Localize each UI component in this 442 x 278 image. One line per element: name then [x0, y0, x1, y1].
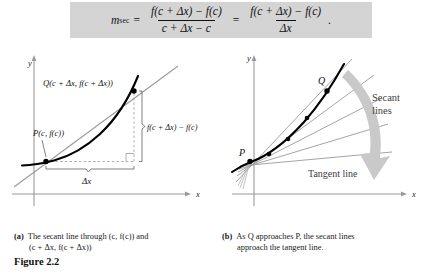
caption-a-line1-row: (a) The secant line through (c, f(c)) an… — [14, 231, 214, 242]
run-brace — [46, 166, 134, 172]
point-p-label: P — [238, 147, 245, 158]
caption-a-line2: (c + Δx, f(c + Δx)) — [14, 242, 214, 253]
formula-lhs-variable: m — [111, 14, 119, 26]
panel-a-secant-line-diagram: y x Q(c + Δx, f(c + Δx)) P(c, f(c)) f(c … — [0, 48, 224, 228]
secant-lines-label-line1: Secant — [372, 92, 400, 103]
panel-b-svg: y x P Q Secant lines Tangent line — [224, 48, 442, 228]
formula-fraction-1-numerator: f(c + Δx) − f(c) — [147, 5, 226, 19]
caption-b-line2: approach the tangent line. — [222, 242, 427, 253]
point-q-label: Q(c + Δx, f(c + Δx)) — [43, 78, 113, 88]
secant-point-marker-4 — [267, 152, 272, 157]
formula-equals-1: = — [134, 14, 141, 26]
secant-line-2 — [237, 75, 374, 176]
x-axis-arrow-icon — [401, 192, 407, 197]
caption-a-tag: (a) — [14, 231, 24, 242]
secant-point-marker-3 — [286, 137, 291, 142]
panel-a-x-axis-label: x — [195, 189, 200, 199]
run-label: Δx — [81, 176, 91, 186]
formula-fraction-1: f(c + Δx) − f(c) c + Δx − c — [147, 5, 226, 34]
point-p-leader-line — [42, 140, 46, 157]
panel-a-y-axis-label: y — [27, 58, 32, 68]
function-curve — [232, 64, 344, 172]
secant-slope-formula: msec = f(c + Δx) − f(c) c + Δx − c = f(c… — [70, 2, 372, 38]
panel-a-svg: y x Q(c + Δx, f(c + Δx)) P(c, f(c)) f(c … — [0, 48, 224, 228]
formula-fraction-2-denominator: Δx — [276, 20, 296, 35]
point-q-marker — [324, 88, 329, 93]
panel-b-y-axis-label: y — [246, 53, 251, 63]
rise-label: f(c + Δx) − f(c) — [147, 123, 198, 132]
x-axis-arrow-icon — [185, 192, 191, 197]
caption-b-tag: (b) — [222, 231, 232, 242]
secant-lines-label-line2: lines — [372, 105, 392, 116]
formula-fraction-2: f(c + Δx) − f(c) Δx — [246, 5, 325, 34]
figure-number-label: Figure 2.2 — [14, 256, 59, 267]
function-curve — [22, 76, 138, 166]
formula-period: . — [328, 14, 331, 26]
secant-to-tangent-sweep-arrow-icon — [342, 70, 390, 180]
formula-fraction-1-denominator: c + Δx − c — [158, 20, 215, 35]
panel-b-x-axis-label: x — [411, 189, 416, 199]
tangent-line-label: Tangent line — [308, 168, 358, 179]
point-p-marker — [43, 159, 48, 164]
caption-b-line1-row: (b) As Q approaches P, the secant lines — [222, 231, 427, 242]
caption-b: (b) As Q approaches P, the secant lines … — [222, 231, 427, 254]
right-angle-marker-icon — [126, 154, 134, 162]
point-q-marker — [131, 88, 136, 93]
panel-b-tangent-limit-diagram: y x P Q Secant lines Tangent line — [224, 48, 442, 228]
point-p-label: P(c, f(c)) — [32, 128, 64, 138]
caption-a: (a) The secant line through (c, f(c)) an… — [14, 231, 214, 254]
secant-line-3 — [238, 98, 382, 172]
formula-fraction-2-numerator: f(c + Δx) − f(c) — [246, 5, 325, 19]
formula-equals-2: = — [233, 14, 240, 26]
figure-page: msec = f(c + Δx) − f(c) c + Δx − c = f(c… — [0, 0, 442, 278]
y-axis-arrow-icon — [32, 55, 37, 61]
caption-a-line1: The secant line through (c, f(c)) and — [28, 231, 149, 242]
rise-brace — [139, 91, 145, 162]
formula-lhs-subscript: sec — [119, 16, 129, 25]
point-p-marker — [247, 159, 252, 164]
y-axis-arrow-icon — [252, 55, 257, 61]
caption-b-line1: As Q approaches P, the secant lines — [236, 231, 354, 242]
secant-point-marker-2 — [305, 116, 310, 121]
point-q-label: Q — [318, 75, 326, 86]
